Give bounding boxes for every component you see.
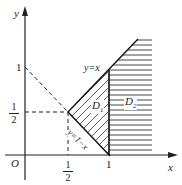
y-eq-x-label: y=x bbox=[84, 63, 100, 73]
x-axis-label: x bbox=[168, 162, 173, 173]
region-d1-label: D1 bbox=[91, 100, 104, 114]
diagram-graphics bbox=[0, 0, 182, 185]
y-tick-half: 12 bbox=[9, 102, 19, 125]
y-axis-label: y bbox=[14, 8, 19, 19]
y-axis-arrow-icon bbox=[22, 6, 28, 16]
region-d2-label: D2 bbox=[124, 96, 137, 110]
x-tick-one: 1 bbox=[106, 159, 112, 170]
origin-label: O bbox=[11, 158, 19, 169]
x-axis-arrow-icon bbox=[168, 152, 178, 158]
x-tick-half: 12 bbox=[63, 160, 73, 183]
y-eq-1-minus-x-dashed bbox=[25, 67, 68, 112]
y-tick-one: 1 bbox=[16, 62, 22, 73]
region-diagram: y x O 1 12 12 1 y=x y=1−x D1 D2 bbox=[0, 0, 182, 185]
